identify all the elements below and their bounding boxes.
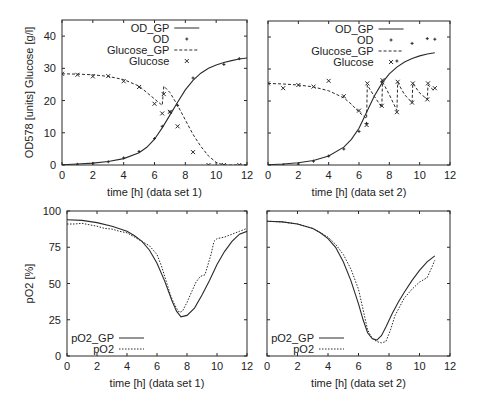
series-po2-gp [267, 221, 435, 340]
x-tick-label: 0 [265, 169, 271, 181]
legend-swatch [390, 39, 393, 42]
legend-label-glucose: Glucose [129, 55, 169, 67]
legend-label-po2: pO2 [93, 343, 114, 355]
point-od [267, 164, 270, 167]
x-tick-label: 6 [355, 360, 361, 372]
x-axis-title: time [h] (data set 2) [311, 377, 406, 389]
y-tick-label: 10 [44, 127, 56, 139]
point-glucose [75, 73, 79, 77]
x-tick-label: 4 [121, 169, 127, 181]
y-tick-label: 0 [55, 350, 61, 362]
point-glucose [312, 85, 316, 89]
x-tick-label: 2 [295, 169, 301, 181]
x-axis-title: time [h] (data set 2) [312, 186, 407, 198]
point-od [91, 162, 94, 165]
series-glucose-gp [268, 82, 435, 119]
point-od [395, 60, 398, 63]
point-od [61, 164, 64, 167]
plot-area [60, 57, 247, 167]
point-glucose [176, 124, 180, 128]
point-glucose [395, 110, 399, 114]
x-axis-title: time [h] (data set 1) [110, 377, 205, 389]
y-tick-label: 25 [49, 314, 61, 326]
x-tick-label: 8 [182, 169, 188, 181]
x-axis-title: time [h] (data set 1) [107, 186, 202, 198]
legend-swatch [389, 60, 393, 64]
point-glucose [327, 79, 331, 83]
y-tick-label: 100 [43, 205, 61, 217]
panel-od-glucose-dataset-1: 024681012010203040time [h] (data set 1)O… [23, 20, 253, 198]
y-tick-label: 75 [49, 241, 61, 253]
y-tick-label: 30 [44, 62, 56, 74]
point-glucose [106, 74, 110, 78]
x-tick-label: 4 [326, 169, 332, 181]
y-tick-label: 0 [50, 159, 56, 171]
x-tick-label: 8 [184, 360, 190, 372]
x-tick-label: 0 [59, 169, 65, 181]
panel-od-glucose-dataset-2: 024681012time [h] (data set 2)OD_GPODGlu… [265, 21, 456, 198]
legend: OD_GPODGlucose_GPGlucose [107, 22, 199, 67]
figure: 024681012010203040time [h] (data set 1)O… [0, 0, 477, 406]
x-tick-label: 12 [241, 169, 253, 181]
x-tick-label: 10 [413, 360, 425, 372]
panel-po2-dataset-1: 0246810120255075100time [h] (data set 1)… [23, 205, 253, 389]
point-od [433, 38, 436, 41]
series-po2 [67, 223, 247, 312]
point-glucose [433, 86, 437, 90]
point-glucose [160, 111, 164, 115]
plot-area [67, 220, 247, 317]
panel-po2-dataset-2: 024681012time [h] (data set 2)pO2_GPpO2 [264, 211, 456, 389]
y-tick-label: 50 [49, 278, 61, 290]
legend-swatch [185, 59, 189, 63]
x-tick-label: 0 [264, 360, 270, 372]
x-tick-label: 8 [386, 360, 392, 372]
x-tick-label: 12 [444, 360, 456, 372]
series-od-gp [62, 58, 247, 165]
x-tick-label: 6 [356, 169, 362, 181]
y-axis-title: pO2 [%] [23, 264, 35, 304]
y-tick-label: 20 [44, 95, 56, 107]
point-glucose [191, 150, 195, 154]
x-tick-label: 6 [151, 169, 157, 181]
legend-swatch [185, 38, 188, 41]
series-po2-gp [67, 220, 247, 317]
legend: OD_GPODGlucose_GPGlucose [311, 23, 403, 68]
legend-label-po2: pO2 [293, 343, 314, 355]
x-tick-label: 2 [90, 169, 96, 181]
point-od [411, 42, 414, 45]
y-axis-title: OD578 [units] Glucose [g/l] [23, 27, 35, 158]
x-tick-label: 2 [294, 360, 300, 372]
legend-label-glucose: Glucose [333, 56, 373, 68]
point-od [107, 160, 110, 163]
x-tick-label: 6 [154, 360, 160, 372]
x-tick-label: 10 [210, 169, 222, 181]
legend: pO2_GPpO2 [271, 332, 344, 355]
legend: pO2_GPpO2 [71, 332, 144, 355]
x-tick-label: 10 [211, 360, 223, 372]
series-glucose-gp [62, 74, 247, 165]
x-tick-label: 4 [325, 360, 331, 372]
plot-area [267, 221, 435, 343]
x-tick-label: 4 [124, 360, 130, 372]
point-glucose [411, 81, 415, 85]
x-tick-label: 0 [64, 360, 70, 372]
series-od-gp [268, 53, 435, 165]
x-tick-label: 12 [444, 169, 456, 181]
point-glucose [153, 102, 157, 106]
x-tick-label: 2 [94, 360, 100, 372]
x-tick-label: 8 [386, 169, 392, 181]
point-od [426, 37, 429, 40]
x-tick-label: 12 [241, 360, 253, 372]
x-tick-label: 10 [414, 169, 426, 181]
point-glucose [281, 86, 285, 90]
y-tick-label: 40 [44, 30, 56, 42]
